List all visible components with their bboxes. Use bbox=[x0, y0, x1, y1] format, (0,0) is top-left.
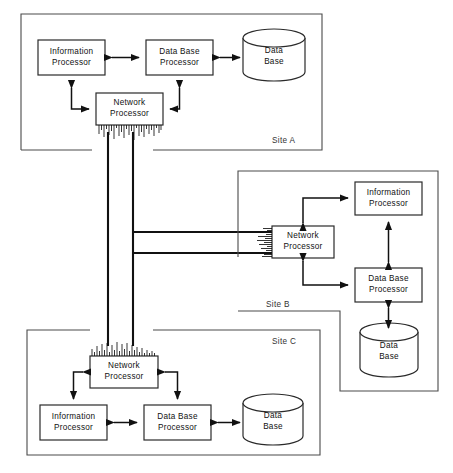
site-c-data-base-processor-label-line1: Data Base bbox=[157, 412, 198, 421]
site-b-data-base-processor-label-line1: Data Base bbox=[368, 274, 409, 283]
site-a-information-processor-label-line2: Processor bbox=[52, 58, 91, 67]
diagram-canvas: Site A Information Processor Data Base P… bbox=[0, 0, 453, 473]
site-a-link-np-ip bbox=[72, 88, 90, 109]
site-b-link-np-ip bbox=[303, 198, 348, 223]
site-c-label: Site C bbox=[272, 337, 296, 346]
site-b-data-base-label-line1: Data bbox=[380, 341, 398, 350]
site-b-network-processor-label-line1: Network bbox=[287, 231, 319, 240]
site-c-network-processor-label-line2: Processor bbox=[104, 372, 143, 381]
site-b-data-base-label-line2: Base bbox=[379, 352, 399, 361]
network-topology-diagram: Site A Information Processor Data Base P… bbox=[0, 0, 453, 473]
site-b-information-processor-label-line2: Processor bbox=[369, 199, 408, 208]
site-c-information-processor-label-line1: Information bbox=[52, 412, 96, 421]
site-c-information-processor: Information Processor bbox=[40, 405, 107, 440]
site-a-link-np-dbp bbox=[170, 88, 180, 109]
site-a-data-base: Data Base bbox=[243, 29, 305, 81]
site-c-data-base-label-line1: Data bbox=[264, 411, 282, 420]
site-a-network-processor: Network Processor bbox=[96, 93, 163, 140]
site-c-network-processor-label-line1: Network bbox=[108, 361, 140, 370]
site-a-information-processor: Information Processor bbox=[38, 40, 105, 75]
site-b-network-processor-label-line2: Processor bbox=[283, 242, 322, 251]
site-a-network-processor-label-line2: Processor bbox=[110, 109, 149, 118]
site-b-data-base-processor: Data Base Processor bbox=[355, 268, 422, 302]
site-a-network-processor-label-line1: Network bbox=[114, 98, 146, 107]
network-trunk bbox=[108, 132, 272, 346]
site-a-data-base-processor: Data Base Processor bbox=[146, 40, 213, 75]
site-c-network-processor-port-fringe bbox=[92, 342, 155, 356]
site-c-information-processor-label-line2: Processor bbox=[54, 423, 93, 432]
site-a-data-base-processor-label-line1: Data Base bbox=[159, 47, 200, 56]
site-c-data-base-label-line2: Base bbox=[263, 422, 283, 431]
caption-strip bbox=[0, 0, 453, 9]
site-a-data-base-processor-label-line2: Processor bbox=[160, 58, 199, 67]
site-b-label: Site B bbox=[266, 300, 290, 309]
site-b-data-base: Data Base bbox=[360, 323, 418, 377]
site-b-data-base-processor-label-line2: Processor bbox=[369, 285, 408, 294]
site-c-link-np-dbp bbox=[165, 372, 178, 399]
site-c-data-base: Data Base bbox=[243, 394, 303, 445]
site-c-data-base-processor-label-line2: Processor bbox=[158, 423, 197, 432]
site-a-data-base-label-line2: Base bbox=[264, 57, 284, 66]
site-b-information-processor-label-line1: Information bbox=[367, 188, 411, 197]
site-c-network-processor: Network Processor bbox=[90, 342, 158, 388]
site-b-links bbox=[303, 198, 389, 328]
site-a-information-processor-label-line1: Information bbox=[50, 47, 94, 56]
site-c-link-np-ip bbox=[74, 372, 84, 399]
site-c-data-base-processor: Data Base Processor bbox=[144, 405, 211, 440]
site-a-label: Site A bbox=[272, 136, 295, 145]
site-b-information-processor: Information Processor bbox=[355, 182, 422, 215]
site-b-link-np-dbp bbox=[303, 261, 348, 285]
site-a-data-base-label-line1: Data bbox=[265, 46, 283, 55]
